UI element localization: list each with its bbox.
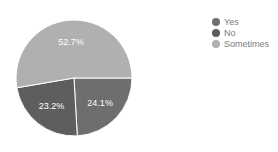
legend-swatch-icon (212, 40, 220, 48)
legend-swatch-icon (212, 18, 220, 26)
pie-chart: 24.1%23.2%52.7% (0, 0, 160, 152)
slice-label: 24.1% (87, 98, 113, 108)
legend-label: Sometimes (224, 39, 269, 49)
slice-label: 52.7% (58, 37, 84, 47)
legend-label: No (224, 28, 236, 38)
legend-item-sometimes[interactable]: Sometimes (212, 38, 269, 49)
slice-label: 23.2% (39, 101, 65, 111)
chart-legend: Yes No Sometimes (212, 16, 269, 49)
legend-item-no[interactable]: No (212, 27, 269, 38)
legend-item-yes[interactable]: Yes (212, 16, 269, 27)
legend-swatch-icon (212, 29, 220, 37)
legend-label: Yes (224, 17, 239, 27)
pie-slice-sometimes[interactable] (16, 20, 132, 88)
